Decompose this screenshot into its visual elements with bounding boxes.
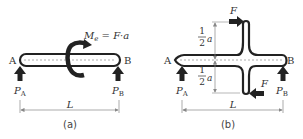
- figure-b: 1 2 a 1 2 a F F A B: [163, 5, 294, 130]
- svg-text:a: a: [207, 73, 212, 83]
- force-label-bottom: F: [260, 78, 269, 89]
- force-label-top: F: [229, 5, 238, 16]
- reaction-arrow-right-icon: [112, 66, 124, 81]
- end-label-b-right: B: [287, 55, 294, 66]
- caption-a: (a): [63, 119, 77, 130]
- svg-text:PA: PA: [175, 85, 189, 98]
- half-a-label-upper: 1 2 a: [198, 26, 212, 48]
- svg-text:1: 1: [199, 26, 205, 36]
- svg-text:2: 2: [199, 38, 205, 48]
- moment-symbol: M: [83, 30, 95, 41]
- beam-diagrams: Me = F·a A B PA PB L (a): [0, 0, 303, 139]
- svg-text:1: 1: [199, 65, 205, 75]
- svg-text:PB: PB: [275, 85, 288, 98]
- svg-text:PA: PA: [13, 85, 27, 98]
- svg-text:Me = F·a: Me = F·a: [83, 30, 129, 43]
- end-label-a-left: A: [8, 55, 17, 66]
- beam-b: [175, 21, 287, 94]
- caption-b: (b): [221, 119, 235, 130]
- svg-text:PB: PB: [111, 85, 124, 98]
- svg-text:2: 2: [199, 77, 205, 87]
- svg-text:a: a: [207, 34, 212, 44]
- reaction-arrow-left-icon: [14, 66, 26, 81]
- force-arrow-top-icon: [229, 16, 244, 27]
- reaction-arrow-left-b-icon: [176, 66, 188, 81]
- half-a-label-lower: 1 2 a: [198, 65, 212, 87]
- end-label-a-right: B: [124, 55, 131, 66]
- figure-a: Me = F·a A B PA PB L (a): [8, 30, 131, 130]
- span-label-b: L: [229, 99, 237, 110]
- end-label-b-left: A: [163, 55, 172, 66]
- moment-expression: = F·a: [98, 30, 129, 41]
- span-label-a: L: [66, 99, 74, 110]
- reaction-arrow-right-b-icon: [277, 66, 289, 81]
- force-arrow-bottom-icon: [249, 88, 264, 99]
